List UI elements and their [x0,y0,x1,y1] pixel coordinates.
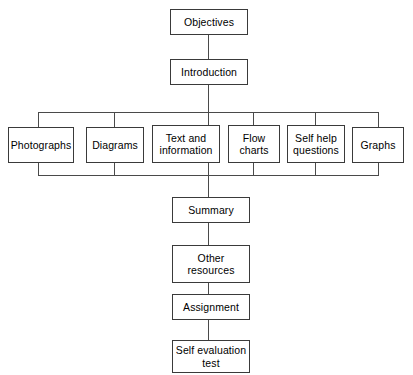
node-assignment[interactable]: Assignment [172,294,250,320]
stub-bottom-diagrams [114,163,115,176]
node-summary[interactable]: Summary [172,197,250,223]
node-self-evaluation-test[interactable]: Self evaluation test [172,340,250,373]
node-introduction[interactable]: Introduction [170,59,248,85]
connector-bus-to-summary [208,175,209,198]
stub-top-diagrams [114,112,115,128]
connector-objectives-to-introduction [208,34,209,59]
connector-assignment-to-self-evaluation-test [208,320,209,340]
connector-introduction-to-bus [208,85,209,113]
stub-bottom-self-help-questions [315,163,316,176]
node-other-resources[interactable]: Other resources [172,245,250,283]
node-flow-charts[interactable]: Flow charts [228,125,280,163]
node-text-and-information[interactable]: Text and information [152,125,220,163]
node-diagrams[interactable]: Diagrams [86,127,144,163]
flowchart-canvas: Objectives Introduction Photographs Diag… [0,0,413,375]
connector-summary-to-other-resources [208,222,209,246]
node-self-help-questions[interactable]: Self help questions [287,125,345,163]
node-objectives[interactable]: Objectives [170,9,248,35]
stub-bottom-graphs [378,163,379,176]
node-graphs[interactable]: Graphs [352,127,404,163]
stub-bottom-flow-charts [253,163,254,176]
stub-bottom-photographs [38,163,39,176]
stub-top-photographs [38,112,39,128]
node-photographs[interactable]: Photographs [8,127,74,163]
stub-top-graphs [378,112,379,128]
